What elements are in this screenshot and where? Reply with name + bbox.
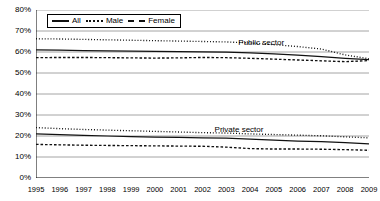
- series-public-sector-female: [36, 57, 369, 61]
- line-chart: 0%10%20%30%40%50%60%70%80% 1995199619971…: [0, 0, 380, 201]
- legend-swatch-solid-icon: [52, 18, 69, 24]
- y-tick-label: 20%: [1, 132, 31, 140]
- legend-item-male: Male: [86, 17, 123, 25]
- series-private-sector-all: [36, 134, 369, 144]
- y-tick-label: 60%: [1, 48, 31, 56]
- y-tick-label: 40%: [1, 90, 31, 98]
- x-tick-label: 2009: [352, 186, 380, 194]
- legend-label-male: Male: [106, 17, 123, 25]
- chart-legend: All Male Female: [47, 14, 181, 28]
- y-tick-label: 0%: [1, 174, 31, 182]
- annotation-label: Private sector: [215, 125, 264, 134]
- legend-item-female: Female: [128, 17, 175, 25]
- y-tick-label: 30%: [1, 111, 31, 119]
- plot-svg: [36, 10, 369, 178]
- series-public-sector-male: [36, 39, 369, 59]
- legend-label-all: All: [72, 17, 81, 25]
- y-tick-label: 50%: [1, 69, 31, 77]
- legend-swatch-dotted-icon: [86, 18, 103, 24]
- annotation-label: Public sector: [238, 38, 284, 47]
- plot-area: [36, 10, 369, 178]
- legend-item-all: All: [52, 17, 81, 25]
- legend-label-female: Female: [148, 17, 175, 25]
- y-tick-label: 80%: [1, 6, 31, 14]
- y-tick-label: 10%: [1, 153, 31, 161]
- series-private-sector-female: [36, 144, 369, 150]
- legend-swatch-dashed-icon: [128, 18, 145, 24]
- y-tick-label: 70%: [1, 27, 31, 35]
